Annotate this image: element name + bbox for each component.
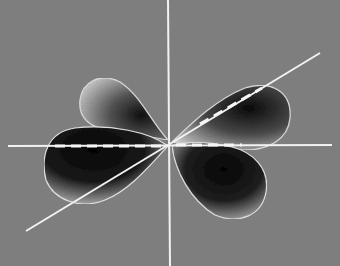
orbital-diagram (0, 0, 340, 266)
lobe-upper-right (172, 86, 290, 150)
lobe-lower-right (172, 143, 267, 219)
orbital-figure (0, 0, 340, 266)
lobe-lower-left (44, 127, 168, 204)
vertical-axis (168, 0, 170, 266)
